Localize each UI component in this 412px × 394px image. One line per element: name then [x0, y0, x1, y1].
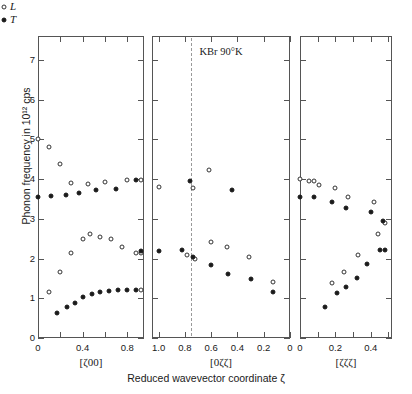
- x-tick: [83, 36, 84, 42]
- y-tick: [300, 219, 306, 220]
- panel-frame-left: [38, 36, 39, 338]
- data-point-T: [344, 205, 349, 210]
- data-point-T: [54, 311, 59, 316]
- data-point-T: [312, 194, 317, 199]
- data-point-T: [344, 285, 349, 290]
- y-tick: [152, 338, 158, 339]
- x-tick: [300, 36, 301, 42]
- data-point-L: [345, 194, 350, 199]
- data-point-T: [248, 277, 253, 282]
- y-tick: [386, 338, 392, 339]
- x-tick: [105, 36, 106, 42]
- data-point-L: [372, 200, 377, 205]
- x-tick: [60, 332, 61, 338]
- data-point-L: [125, 177, 130, 182]
- data-point-T: [125, 287, 130, 292]
- x-tick: [290, 332, 291, 338]
- data-point-L: [270, 279, 275, 284]
- panel-frame-bottom: [152, 337, 290, 338]
- y-tick: [284, 60, 290, 61]
- y-tick: [138, 298, 144, 299]
- data-point-T: [298, 194, 303, 199]
- data-point-T: [63, 192, 68, 197]
- y-tick: [284, 219, 290, 220]
- y-tick: [38, 60, 44, 61]
- y-tick: [386, 139, 392, 140]
- x-tick: [353, 332, 354, 338]
- y-tick: [284, 298, 290, 299]
- y-tick: [138, 219, 144, 220]
- x-tick: [264, 36, 265, 42]
- y-tick: [284, 179, 290, 180]
- data-point-L: [209, 239, 214, 244]
- data-point-T: [209, 263, 214, 268]
- data-point-L: [119, 245, 124, 250]
- x-tick: [335, 36, 336, 42]
- panel-axis-label-lambda: [ζζζ]: [300, 356, 392, 368]
- data-point-L: [138, 177, 143, 182]
- data-point-T: [377, 247, 382, 252]
- y-tick: [152, 179, 158, 180]
- y-tick: [38, 179, 44, 180]
- data-point-L: [98, 234, 103, 239]
- y-tick: [38, 298, 44, 299]
- y-tick: [386, 179, 392, 180]
- data-point-T: [116, 288, 121, 293]
- x-tick: [105, 332, 106, 338]
- y-tick: [300, 60, 306, 61]
- x-tick: [388, 36, 389, 42]
- y-tick-label: 7: [24, 54, 35, 65]
- y-tick: [138, 259, 144, 260]
- data-point-L: [342, 270, 347, 275]
- data-point-L: [190, 185, 195, 190]
- x-tick: [237, 332, 238, 338]
- data-point-T: [365, 262, 370, 267]
- y-tick: [138, 338, 144, 339]
- data-point-T: [190, 254, 195, 259]
- data-point-T: [77, 190, 82, 195]
- y-tick: [38, 338, 44, 339]
- y-tick: [38, 100, 44, 101]
- data-point-T: [94, 188, 99, 193]
- x-tick: [371, 332, 372, 338]
- legend-label: T: [10, 13, 16, 25]
- data-point-T: [156, 249, 161, 254]
- panel-sigma: 1.00.80.60.40.20[0ζζ]: [152, 36, 290, 338]
- y-tick: [152, 100, 158, 101]
- x-tick: [211, 36, 212, 42]
- x-tick: [388, 332, 389, 338]
- data-point-T: [329, 200, 334, 205]
- x-tick: [127, 36, 128, 42]
- data-point-L: [69, 181, 74, 186]
- data-point-T: [36, 194, 41, 199]
- data-point-T: [114, 186, 119, 191]
- panel-lambda: 00.20.4[ζζζ]: [300, 36, 392, 338]
- panel-frame-top: [300, 36, 392, 37]
- data-point-T: [65, 305, 70, 310]
- data-point-L: [306, 179, 311, 184]
- x-tick: [318, 36, 319, 42]
- filled-circle-icon: [2, 18, 7, 23]
- y-tick-label: 2: [24, 253, 35, 264]
- y-tick: [138, 100, 144, 101]
- y-tick-label: 1: [24, 292, 35, 303]
- x-tick-label: 0: [286, 342, 314, 353]
- x-tick-label: 0.4: [69, 342, 97, 353]
- data-point-L: [86, 181, 91, 186]
- data-point-L: [36, 137, 41, 142]
- x-tick-label: 0.8: [113, 342, 141, 353]
- data-point-T: [98, 289, 103, 294]
- data-point-T: [322, 305, 327, 310]
- data-point-T: [230, 188, 235, 193]
- legend: LT: [0, 0, 60, 30]
- x-tick-label: 0.2: [250, 342, 278, 353]
- data-point-L: [69, 251, 74, 256]
- data-point-T: [335, 291, 340, 296]
- data-point-T: [89, 292, 94, 297]
- y-tick: [138, 60, 144, 61]
- data-point-T: [382, 247, 387, 252]
- x-tick: [371, 36, 372, 42]
- data-point-L: [47, 290, 52, 295]
- y-tick: [386, 259, 392, 260]
- panel-frame-right: [143, 36, 144, 338]
